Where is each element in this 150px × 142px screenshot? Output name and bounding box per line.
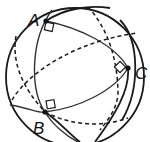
back-arc-left bbox=[15, 36, 45, 112]
back-arc-right bbox=[88, 7, 118, 130]
great-circle-a-top bbox=[46, 7, 110, 21]
vertex-a-point bbox=[43, 18, 48, 23]
great-circle-b-bottom bbox=[45, 112, 80, 142]
sphere-diagram: A B C bbox=[0, 0, 150, 142]
right-angle-mark-b bbox=[46, 100, 55, 109]
great-circle-ac bbox=[46, 21, 128, 68]
vertex-c-point bbox=[125, 65, 130, 70]
great-circle-c-bottom bbox=[95, 68, 128, 142]
vertex-a-label: A bbox=[27, 11, 39, 30]
vertex-c-label: C bbox=[135, 64, 148, 83]
vertex-b-label: B bbox=[33, 119, 44, 138]
vertex-b-point bbox=[42, 109, 47, 114]
